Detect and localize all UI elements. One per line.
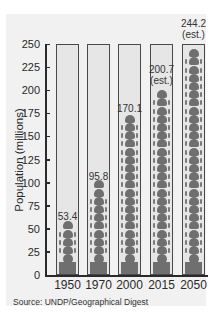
person-arm-icon [200,240,202,245]
person-arm-icon [153,182,155,187]
person-arm-icon [200,117,202,122]
value-label-2050: 244.2(est.) [174,18,214,40]
column-1970 [87,44,110,275]
person-arm-icon [185,207,187,212]
person-arm-icon [153,191,155,196]
person-icon [157,148,167,156]
person-arm-icon [200,68,202,73]
x-tick-label-2050: 2050 [177,278,211,292]
person-icon [189,98,199,106]
person-arm-icon [168,215,170,220]
person-arm-icon [168,150,170,155]
person-arm-icon [121,125,123,130]
x-tick-label-2015: 2015 [145,278,179,292]
person-icon [63,230,73,238]
person-arm-icon [200,232,202,237]
person-icon [157,123,167,131]
person-arm-icon [153,117,155,122]
person-arm-icon [185,68,187,73]
person-icon [189,197,199,205]
person-icon [189,49,199,57]
person-arm-icon [90,240,92,245]
person-arm-icon [185,150,187,155]
person-arm-icon [168,240,170,245]
person-arm-icon [185,223,187,228]
y-tick-label: 25 [6,246,40,258]
person-icon [94,213,104,221]
person-arm-icon [90,248,92,253]
figure-stack [151,89,172,274]
person-arm-icon [153,166,155,171]
person-arm-icon [168,191,170,196]
person-icon [189,180,199,188]
person-head-icon [189,254,199,264]
y-tick-label: 100 [6,177,40,189]
person-arm-icon [74,240,76,245]
person-arm-icon [185,166,187,171]
person-arm-icon [153,223,155,228]
person-arm-icon [200,109,202,114]
column-2000 [118,44,141,275]
person-head-icon [125,254,135,264]
person-icon [157,107,167,115]
person-arm-icon [121,133,123,138]
person-arm-icon [185,232,187,237]
person-icon [125,148,135,156]
person-arm-icon [200,141,202,146]
person-icon [157,98,167,106]
person-arm-icon [168,133,170,138]
person-icon [125,123,135,131]
person-icon [189,221,199,229]
person-icon [157,221,167,229]
person-icon [63,246,73,254]
person-arm-icon [200,207,202,212]
person-arm-icon [185,182,187,187]
person-arm-icon [185,117,187,122]
person-arm-icon [90,199,92,204]
person-arm-icon [121,166,123,171]
person-arm-icon [185,199,187,204]
person-arm-icon [136,133,138,138]
person-icon [94,230,104,238]
person-icon [189,238,199,246]
person-icon [189,107,199,115]
figure-stack [57,225,78,274]
y-tick-label: 175 [6,107,40,119]
person-arm-icon [200,76,202,81]
person-arm-icon [200,215,202,220]
person-arm-icon [185,76,187,81]
person-icon [125,172,135,180]
person-arm-icon [168,232,170,237]
person-arm-icon [136,166,138,171]
person-arm-icon [153,158,155,163]
person-arm-icon [200,150,202,155]
person-icon [157,180,167,188]
person-arm-icon [136,223,138,228]
person-arm-icon [185,100,187,105]
person-arm-icon [136,232,138,237]
person-icon [125,156,135,164]
person-icon [157,164,167,172]
person-arm-icon [200,84,202,89]
person-icon [189,246,199,254]
y-tick-label: 50 [6,223,40,235]
person-arm-icon [168,248,170,253]
person-icon [157,213,167,221]
person-arm-icon [121,248,123,253]
person-arm-icon [136,248,138,253]
person-arm-icon [168,141,170,146]
person-arm-icon [153,125,155,130]
person-arm-icon [136,141,138,146]
person-icon [125,230,135,238]
person-icon [94,205,104,213]
y-tick-label: 0 [6,269,40,281]
person-arm-icon [136,207,138,212]
value-text: 170.1 [110,103,150,114]
value-text: 95.8 [79,171,119,182]
person-arm-icon [121,232,123,237]
person-arm-icon [168,182,170,187]
value-text: 53.4 [48,211,88,222]
person-arm-icon [200,248,202,253]
person-arm-icon [90,223,92,228]
person-arm-icon [136,150,138,155]
